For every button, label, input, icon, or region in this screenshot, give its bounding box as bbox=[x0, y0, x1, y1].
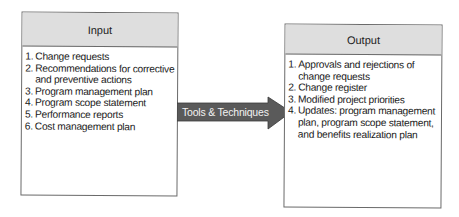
input-title: Input bbox=[88, 23, 113, 35]
input-box: Input 1.Change requests 2.Recommendation… bbox=[20, 12, 178, 197]
item-text: Performance reports bbox=[35, 109, 175, 121]
item-number: 6. bbox=[25, 120, 35, 132]
tools-techniques-label: Tools & Techniques bbox=[182, 106, 274, 118]
item-text: Updates: program management plan, progra… bbox=[298, 105, 439, 141]
item-text: Modified project priorities bbox=[298, 93, 439, 105]
item-number: 2. bbox=[25, 62, 35, 85]
input-item: 5.Performance reports bbox=[25, 109, 175, 122]
input-header: Input bbox=[22, 13, 177, 48]
output-box: Output 1.Approvals and rejections of cha… bbox=[283, 24, 442, 209]
item-text: Program management plan bbox=[35, 85, 175, 97]
item-number: 4. bbox=[25, 97, 35, 109]
input-list: 1.Change requests 2.Recommendations for … bbox=[22, 47, 178, 133]
output-title: Output bbox=[347, 33, 380, 45]
item-number: 4. bbox=[288, 105, 298, 140]
input-item: 2.Recommendations for corrective and pre… bbox=[25, 62, 175, 86]
input-item: 6.Cost management plan bbox=[25, 120, 175, 133]
item-number: 1. bbox=[288, 59, 298, 82]
item-number: 3. bbox=[25, 85, 35, 97]
item-text: Change register bbox=[298, 82, 439, 94]
input-item: 4.Program scope statement bbox=[25, 97, 175, 110]
item-number: 3. bbox=[288, 93, 298, 105]
item-text: Change requests bbox=[35, 51, 175, 63]
item-number: 2. bbox=[288, 82, 298, 94]
item-text: Approvals and rejections of change reque… bbox=[298, 59, 439, 83]
input-item: 3.Program management plan bbox=[25, 85, 175, 98]
output-list: 1.Approvals and rejections of change req… bbox=[285, 55, 442, 141]
item-number: 1. bbox=[25, 51, 35, 63]
output-item: 1.Approvals and rejections of change req… bbox=[288, 59, 439, 83]
item-text: Program scope statement bbox=[35, 97, 175, 109]
output-item: 3.Modified project priorities bbox=[288, 93, 439, 106]
item-text: Cost management plan bbox=[35, 120, 175, 132]
output-header: Output bbox=[285, 25, 441, 56]
output-item: 4.Updates: program management plan, prog… bbox=[288, 105, 439, 141]
output-item: 2.Change register bbox=[288, 82, 439, 95]
item-text: Recommendations for corrective and preve… bbox=[35, 62, 175, 86]
input-item: 1.Change requests bbox=[25, 51, 175, 64]
item-number: 5. bbox=[25, 109, 35, 121]
